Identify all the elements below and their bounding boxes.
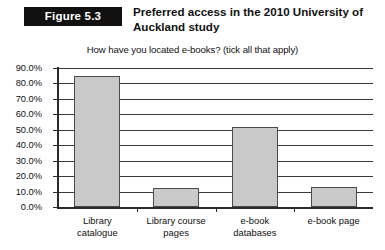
plot-area: 90.0%80.0%70.0%60.0%50.0%40.0%30.0%20.0%… [58,68,373,207]
y-axis-tick-mark [53,99,58,100]
chart-subtitle: How have you located e-books? (tick all … [0,44,385,55]
y-axis-tick-mark [53,145,58,146]
y-axis-tick-label: 0.0% [0,202,42,212]
x-axis-category-label: Library course pages [137,215,216,238]
y-axis-tick-label: 30.0% [0,156,42,166]
y-axis-tick-label: 90.0% [0,63,42,73]
y-axis-tick-label: 60.0% [0,109,42,119]
y-axis-tick-mark [53,161,58,162]
x-axis-tick-mark [137,207,138,212]
y-axis-tick-mark [53,68,58,69]
bar-chart: How have you located e-books? (tick all … [0,40,385,250]
bar [232,127,278,207]
y-axis-tick-label: 50.0% [0,125,42,135]
y-axis-tick-label: 80.0% [0,78,42,88]
y-axis-tick-label: 70.0% [0,94,42,104]
bar-series [58,68,373,207]
bar [74,76,120,207]
y-axis-tick-label: 40.0% [0,140,42,150]
x-axis-category-label: Library catalogue [58,215,137,238]
y-axis-tick-mark [53,176,58,177]
y-axis-tick-mark [53,114,58,115]
y-axis-tick-mark [53,130,58,131]
figure-title: Preferred access in the 2010 University … [133,4,377,34]
bar [153,188,199,207]
y-axis-tick-label: 20.0% [0,171,42,181]
figure-header: Figure 5.3 Preferred access in the 2010 … [0,0,385,42]
x-axis-tick-mark [294,207,295,212]
y-axis-tick-label: 10.0% [0,187,42,197]
y-axis-tick-mark [53,192,58,193]
x-axis-category-label: e-book page [294,215,373,227]
x-axis-tick-mark [216,207,217,212]
y-axis-tick-mark [53,83,58,84]
bar [311,187,357,207]
x-axis-category-label: e-book databases [216,215,295,238]
y-axis-tick-mark [53,207,58,208]
figure-number-badge: Figure 5.3 [24,7,122,26]
